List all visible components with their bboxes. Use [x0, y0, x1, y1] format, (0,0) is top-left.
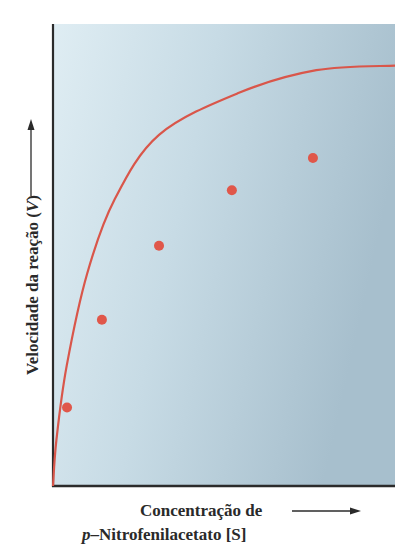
plot-area	[53, 24, 395, 486]
x-axis-title-line1: Concentração de	[140, 501, 263, 520]
x-axis-title-line2: p–Nitrofenilacetato [S]	[80, 525, 246, 544]
chart: Velocidade da reação (V) Concentração de…	[0, 0, 405, 559]
data-point	[62, 402, 72, 412]
data-point	[154, 241, 164, 251]
data-point	[308, 153, 318, 163]
data-point	[97, 315, 107, 325]
y-axis-title: Velocidade da reação (V)	[23, 195, 42, 375]
data-point	[227, 185, 237, 195]
y-axis-arrow-icon	[28, 119, 35, 196]
x-axis-arrow-icon	[292, 508, 361, 515]
